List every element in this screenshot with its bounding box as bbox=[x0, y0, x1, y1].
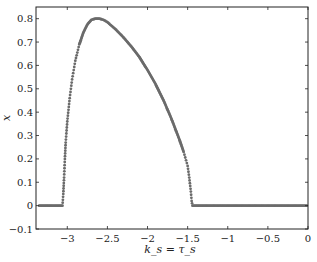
x-tick-label: 0 bbox=[305, 233, 311, 244]
y-axis-label: x bbox=[0, 114, 13, 121]
y-tick-label: 0 bbox=[27, 200, 33, 211]
y-tick-label: 0.4 bbox=[17, 107, 33, 118]
chart-svg: −3−2.5−2−1.5−1−0.50 −0.100.10.20.30.40.5… bbox=[0, 0, 317, 262]
y-tick-label: 0.3 bbox=[17, 130, 33, 141]
chart: −3−2.5−2−1.5−1−0.50 −0.100.10.20.30.40.5… bbox=[0, 0, 317, 262]
x-tick-label: −3 bbox=[60, 233, 75, 244]
y-tick-label: 0.5 bbox=[17, 83, 33, 94]
x-tick-label: −2.5 bbox=[95, 233, 119, 244]
x-axis-ticks: −3−2.5−2−1.5−1−0.50 bbox=[60, 7, 311, 244]
y-tick-label: 0.7 bbox=[17, 37, 33, 48]
y-tick-label: −0.1 bbox=[9, 224, 33, 235]
x-axis-label: k_s = τ_s bbox=[144, 243, 196, 256]
y-tick-label: 0.2 bbox=[17, 153, 33, 164]
x-tick-label: −0.5 bbox=[256, 233, 280, 244]
x-tick-label: −1 bbox=[220, 233, 235, 244]
y-axis-ticks: −0.100.10.20.30.40.50.60.70.8 bbox=[9, 13, 308, 234]
y-tick-label: 0.6 bbox=[17, 60, 33, 71]
y-tick-label: 0.8 bbox=[17, 13, 33, 24]
data-points bbox=[38, 17, 308, 207]
y-tick-label: 0.1 bbox=[17, 177, 33, 188]
